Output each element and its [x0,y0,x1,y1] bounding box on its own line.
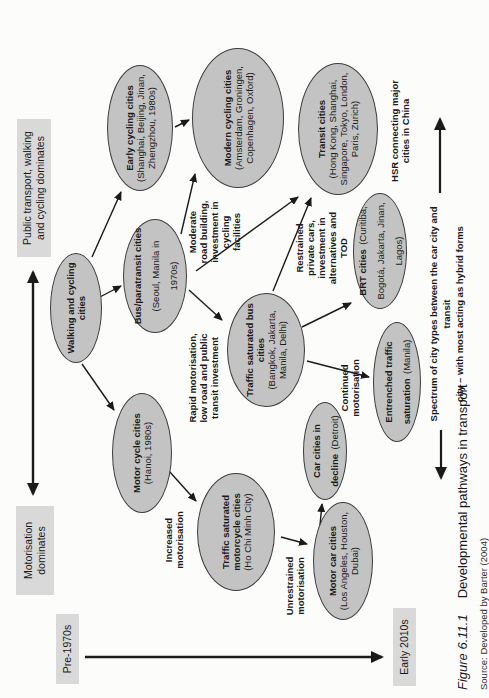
node-title: Motor cycle cities [131,413,142,493]
spectrum-line1: Spectrum of city types between the car c… [427,192,453,436]
node-motor-cycle-cities: Motor cycle cities (Hanoi, 1980s) [112,393,172,513]
annotation-unrestrained-motorisation: Unrestrained motorisation [284,547,306,625]
time-axis-label-pre-1970s: Pre-1970s [56,614,79,684]
node-title: Traffic saturated motorcycle cities [220,480,242,584]
node-subtitle: (Shanghai, Beijing, Jinan, Zhengzhou, 19… [135,72,157,184]
node-title: Traffic saturated bus cities [244,300,266,400]
arrow-bus-to-traffic-saturated-bus [189,290,222,320]
node-title: Modern cycling cities [222,70,233,167]
node-bus-paratransit-cities: Bus/paratransit cities (Seoul, Manila in… [123,219,187,333]
node-early-cycling-cities: Early cycling cities (Shanghai, Beijing,… [107,65,173,191]
node-modern-cycling-cities: Modern cycling cities (Amsterdam, Gronin… [192,48,284,188]
node-subtitle: (Detroit) [329,415,340,449]
node-subtitle: (Los Angeles, Houston, Dubai) [338,509,360,613]
node-motor-car-cities: Motor car cities (Los Angeles, Houston, … [313,502,373,620]
node-subtitle: (Amsterdam, Groningen, Copenhagen, Oxfor… [233,55,255,181]
node-subtitle: (Ho Chi Minh City) [242,493,253,571]
node-transit-cities: Transit cities (Hong Kong, Shanghai, Sin… [298,63,378,195]
node-traffic-saturated-motorcycle-cities: Traffic saturated motorcycle cities (Ho … [197,473,275,591]
arrow-motor-cycle-to-traffic-motorcycle [169,471,196,501]
node-title: Early cycling cities [124,85,135,171]
node-subtitle: (Manila) [401,340,412,374]
node-subtitle: (Seoul, Manila in 1970s) [150,241,179,312]
node-subtitle: (Hanoi, 1980s) [142,422,153,484]
node-title: Bus/paratransit cities [132,228,143,325]
node-title: Transit cities [316,100,327,158]
node-entrenched-traffic-saturation: Entrenched traffic saturation (Manila) [373,322,421,442]
mode-axis-label-motorisation: Motorisation dominates [16,506,54,595]
rotated-figure-canvas: Motorisation dominates Public transport,… [0,0,489,698]
node-brt-cities: BRT cities (Curitiba, Bogotá, Jakarta, J… [353,193,407,309]
arrow-traffic-motorcycle-to-motor-car [281,537,307,544]
node-title: Motor car cities [327,526,338,596]
arrow-walking-to-early-cycling [92,192,121,257]
node-subtitle: (Hong Kong, Shanghai, Singapore, Tokyo, … [327,70,360,188]
figure-source-line: Source: Developed by Barter (2004) [478,538,489,690]
arrow-traffic-bus-to-brt [302,303,351,327]
time-axis-label-early-2010s: Early 2010s [393,608,416,686]
figure-caption-title: Developmental pathways in transport [455,384,470,598]
annotation-increased-motorisation: Increased motorisation [163,504,185,576]
arrow-walking-to-motor-cycle [82,364,114,410]
node-title: Walking and cycling cities [65,260,87,356]
figure-caption: Figure 6.11.1Developmental pathways in t… [455,384,470,690]
mode-axis-label-public-transport: Public transport, walking and cycling do… [17,119,51,257]
annotation-rapid-motorisation: Rapid motorisation, low road and public … [187,326,220,430]
annotation-restrained-private-cars: Restrained private cars, investment in a… [294,204,349,292]
scanned-book-page: Motorisation dominates Public transport,… [0,0,489,698]
annotation-moderate-road-building: Moderate road building, investment in cy… [187,196,242,268]
figure-caption-number: Figure 6.11.1 [455,614,470,690]
node-subtitle: (Bangkok, Jakarta, Manila, Delhi) [266,300,288,400]
node-title: BRT cities [357,249,368,295]
node-walking-cycling-cities: Walking and cycling cities [50,253,102,363]
arrow-early-to-modern-cycling [175,120,189,127]
node-traffic-saturated-bus-cities: Traffic saturated bus cities (Bangkok, J… [227,293,305,407]
annotation-hsr-china: HSR connecting major cities in China [389,64,411,198]
annotation-continued-motorisation: Continued motorisation [339,352,361,424]
